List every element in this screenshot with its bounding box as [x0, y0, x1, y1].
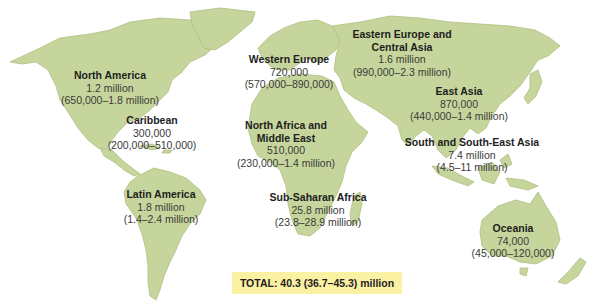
region-value: 1.2 million	[61, 82, 159, 95]
region-label-eastern-europe-central-asia: Eastern Europe and Central Asia 1.6 mill…	[352, 28, 451, 78]
region-value: 7.4 million	[405, 149, 539, 162]
region-name-line2: Middle East	[237, 132, 335, 145]
region-range: (4.5–11 million)	[405, 161, 539, 174]
region-name: Oceania	[472, 222, 555, 235]
region-value: 870,000	[410, 98, 508, 111]
region-label-north-africa-middle-east: North Africa and Middle East 510,000 (23…	[237, 119, 335, 169]
region-value: 300,000	[108, 127, 197, 140]
region-range: (570,000–890,000)	[245, 78, 334, 91]
region-name: Caribbean	[108, 114, 197, 127]
region-range: (650,000–1.8 million)	[61, 94, 159, 107]
region-range: (230,000–1.4 million)	[237, 157, 335, 170]
central-america-landmass	[100, 148, 140, 176]
region-name: South and South-East Asia	[405, 136, 539, 149]
region-value: 1.8 million	[124, 201, 199, 214]
total-label: TOTAL: 40.3 (36.7–45.3) million	[240, 277, 394, 289]
region-label-sub-saharan-africa: Sub-Saharan Africa 25.8 million (23.8–28…	[269, 191, 366, 229]
region-name: East Asia	[410, 85, 508, 98]
region-name-line2: Central Asia	[352, 41, 451, 54]
region-label-latin-america: Latin America 1.8 million (1.4–2.4 milli…	[124, 188, 199, 226]
region-name: Latin America	[124, 188, 199, 201]
region-name: North America	[61, 69, 159, 82]
total-summary-box: TOTAL: 40.3 (36.7–45.3) million	[232, 272, 402, 294]
region-name-line1: North Africa and	[237, 119, 335, 132]
tasmania-landmass	[520, 268, 528, 276]
region-range: (23.8–28.9 million)	[269, 216, 366, 229]
region-value: 1.6 million	[352, 53, 451, 66]
region-value: 720,000	[245, 66, 334, 79]
region-range: (200,000–510,000)	[108, 139, 197, 152]
region-value: 25.8 million	[269, 204, 366, 217]
region-label-western-europe: Western Europe 720,000 (570,000–890,000)	[245, 53, 334, 91]
region-name-line1: Eastern Europe and	[352, 28, 451, 41]
region-value: 510,000	[237, 144, 335, 157]
region-label-north-america: North America 1.2 million (650,000–1.8 m…	[61, 69, 159, 107]
region-range: (1.4–2.4 million)	[124, 213, 199, 226]
region-range: (440,000–1.4 million)	[410, 110, 508, 123]
region-name: Sub-Saharan Africa	[269, 191, 366, 204]
region-label-oceania: Oceania 74,000 (45,000–120,000)	[472, 222, 555, 260]
region-value: 74,000	[472, 235, 555, 248]
region-label-east-asia: East Asia 870,000 (440,000–1.4 million)	[410, 85, 508, 123]
region-label-south-southeast-asia: South and South-East Asia 7.4 million (4…	[405, 136, 539, 174]
region-label-caribbean: Caribbean 300,000 (200,000–510,000)	[108, 114, 197, 152]
new-zealand-landmass	[558, 258, 586, 284]
region-range: (45,000–120,000)	[472, 247, 555, 260]
region-name: Western Europe	[245, 53, 334, 66]
region-range: (990,000–2.3 million)	[352, 66, 451, 79]
